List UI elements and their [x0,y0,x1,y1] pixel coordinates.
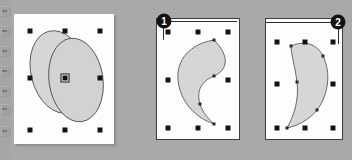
handle-bottom-left[interactable] [166,126,171,131]
panel-crescent-left[interactable] [156,18,240,140]
handle-middle-left[interactable] [275,82,280,87]
shape-group-crescent-right[interactable] [265,18,343,140]
handle-middle-left[interactable] [166,78,171,83]
cropped-tool-palette[interactable] [0,0,11,160]
path-node-1[interactable] [213,39,216,42]
panel-two-ellipses[interactable] [14,14,114,144]
path-node-1[interactable] [290,45,293,48]
path-node-4[interactable] [316,109,319,112]
handle-top-center[interactable] [303,40,308,45]
tool-icon-4 [2,70,7,72]
handle-bottom-center[interactable] [196,126,201,131]
tool-icon-3 [2,50,7,52]
handle-center-rotation[interactable] [63,76,68,81]
badge-2-leader-horizontal [266,22,339,23]
handle-middle-right[interactable] [331,82,336,87]
handle-top-left[interactable] [28,29,33,34]
handle-top-right[interactable] [98,29,103,34]
handle-top-right[interactable] [331,40,336,45]
panel-crescent-right[interactable] [265,18,343,140]
handle-bottom-center[interactable] [63,128,68,133]
handle-top-right[interactable] [226,30,231,35]
handle-top-center[interactable] [196,30,201,35]
handle-bottom-right[interactable] [226,126,231,131]
path-node-4[interactable] [213,123,216,126]
handle-top-center[interactable] [63,29,68,34]
handle-middle-left[interactable] [28,76,33,81]
screenshot-stage: 1 2 [0,0,352,160]
handle-bottom-right[interactable] [98,128,103,133]
path-node-3[interactable] [296,81,299,84]
handle-bottom-left[interactable] [28,128,33,133]
badge-1-leader-horizontal [163,21,237,22]
path-node-2[interactable] [322,55,325,58]
handle-top-left[interactable] [275,40,280,45]
handle-bottom-right[interactable] [331,126,336,131]
handle-middle-right[interactable] [226,78,231,83]
tool-icon-5 [2,90,7,92]
crescent-left-shape[interactable] [178,40,225,124]
path-node-5[interactable] [286,127,289,130]
step-badge-2: 2 [331,15,346,30]
path-node-3[interactable] [199,103,202,106]
handle-top-left[interactable] [166,30,171,35]
tool-icon-7 [2,130,7,132]
tool-icon-1 [2,10,7,12]
tool-icon-2 [2,30,7,32]
path-node-2[interactable] [213,75,216,78]
handle-bottom-left[interactable] [275,126,280,131]
handle-middle-right[interactable] [98,76,103,81]
tool-icon-6 [2,108,7,110]
handle-bottom-center[interactable] [303,126,308,131]
step-badge-1: 1 [157,14,172,29]
